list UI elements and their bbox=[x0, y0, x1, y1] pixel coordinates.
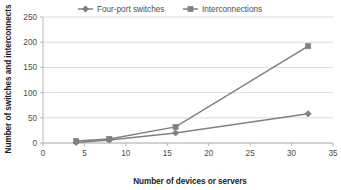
y-tick-label: 0 bbox=[32, 139, 37, 148]
chart-background bbox=[0, 0, 341, 190]
y-tick-label: 150 bbox=[23, 63, 37, 72]
square-marker-icon bbox=[306, 44, 311, 49]
y-axis-title: Number of switches and interconnects bbox=[4, 4, 13, 153]
y-tick-label: 100 bbox=[23, 89, 37, 98]
y-tick-label: 50 bbox=[28, 114, 38, 123]
x-tick-label: 25 bbox=[246, 149, 256, 158]
x-tick-label: 5 bbox=[82, 149, 87, 158]
square-marker-icon bbox=[188, 6, 193, 11]
square-marker-icon bbox=[74, 138, 79, 143]
y-tick-label: 250 bbox=[23, 13, 37, 22]
line-chart: 050100150200250 05101520253035 Four-port… bbox=[0, 0, 341, 190]
y-tick-label: 200 bbox=[23, 38, 37, 47]
x-tick-label: 30 bbox=[287, 149, 297, 158]
x-tick-label: 0 bbox=[41, 149, 46, 158]
square-marker-icon bbox=[107, 136, 112, 141]
x-tick-label: 10 bbox=[121, 149, 131, 158]
square-marker-icon bbox=[173, 124, 178, 129]
x-tick-label: 15 bbox=[163, 149, 173, 158]
x-tick-label: 20 bbox=[204, 149, 214, 158]
legend-label: Interconnections bbox=[202, 5, 262, 14]
chart-container: 050100150200250 05101520253035 Four-port… bbox=[0, 0, 341, 190]
x-axis-title: Number of devices or servers bbox=[133, 177, 247, 186]
legend-label: Four-port switches bbox=[97, 5, 164, 14]
x-tick-label: 35 bbox=[328, 149, 338, 158]
